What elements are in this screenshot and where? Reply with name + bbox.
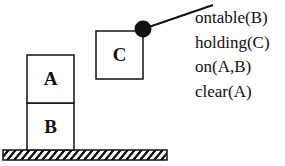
predicate-list: ontable(B) holding(C) on(A,B) clear(A) bbox=[195, 6, 270, 104]
predicate-clear: clear(A) bbox=[195, 80, 270, 105]
svg-text:C: C bbox=[113, 44, 127, 65]
svg-text:B: B bbox=[44, 116, 57, 137]
block-c: C bbox=[96, 31, 143, 79]
block-a: A bbox=[27, 55, 74, 103]
svg-text:A: A bbox=[44, 68, 58, 89]
gripper-joint-icon bbox=[135, 21, 152, 38]
table-surface bbox=[3, 150, 167, 160]
predicate-on: on(A,B) bbox=[195, 55, 270, 80]
predicate-holding: holding(C) bbox=[195, 31, 270, 56]
block-b: B bbox=[27, 103, 74, 150]
predicate-ontable: ontable(B) bbox=[195, 6, 270, 31]
